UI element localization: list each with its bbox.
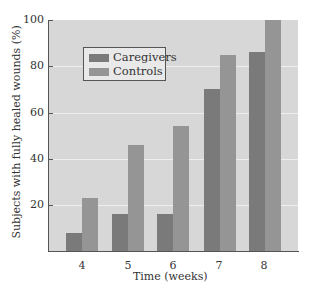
y-tick xyxy=(49,113,53,114)
x-axis-title: Time (weeks) xyxy=(133,270,208,283)
legend-label-controls: Controls xyxy=(113,65,163,78)
x-tick-label-4: 4 xyxy=(72,259,92,272)
y-tick xyxy=(49,66,53,67)
bar-caregivers-week-5 xyxy=(112,214,128,251)
legend-label-caregivers: Caregivers xyxy=(113,51,177,64)
bar-controls-week-8 xyxy=(265,20,281,251)
y-tick xyxy=(49,20,53,21)
bar-controls-week-7 xyxy=(220,55,236,251)
plot-area: Caregivers Controls xyxy=(49,20,298,251)
x-axis xyxy=(48,251,299,252)
caregivers-swatch xyxy=(89,54,109,62)
bar-caregivers-week-4 xyxy=(66,233,82,251)
y-axis xyxy=(48,20,49,252)
legend: Caregivers Controls xyxy=(83,47,166,81)
x-tick-label-7: 7 xyxy=(209,259,229,272)
bar-controls-week-5 xyxy=(128,145,144,251)
x-tick-label-8: 8 xyxy=(254,259,274,272)
y-tick-label-100: 100 xyxy=(14,14,44,26)
bar-caregivers-week-8 xyxy=(249,52,265,251)
bar-controls-week-6 xyxy=(173,126,189,251)
bar-caregivers-week-7 xyxy=(204,89,220,251)
y-tick xyxy=(49,159,53,160)
legend-item-controls: Controls xyxy=(89,65,163,78)
controls-swatch xyxy=(89,68,109,76)
bar-caregivers-week-6 xyxy=(157,214,173,251)
legend-item-caregivers: Caregivers xyxy=(89,51,177,64)
y-tick xyxy=(49,205,53,206)
y-axis-title: Subjects with fully healed wounds (%) xyxy=(10,39,23,239)
bar-controls-week-4 xyxy=(82,198,98,251)
